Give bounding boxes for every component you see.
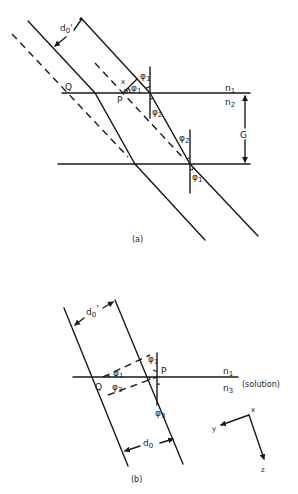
label-phi3-normal-b: φ3: [155, 408, 165, 420]
label-x: x: [121, 78, 125, 86]
label-phi1-top: φ1: [140, 71, 150, 83]
label-d0-b: d0: [143, 438, 153, 450]
label-d0-prime: d0': [60, 23, 73, 35]
label-d0-prime-b: d0': [86, 304, 99, 319]
axis-y: [221, 415, 249, 425]
label-phi2-upper: φ2: [152, 107, 162, 119]
caption-b: (b): [131, 475, 142, 484]
label-P-b: P: [161, 366, 167, 376]
optics-diagram: d0' Q P x φ1 φ1 n1 n2 φ2 φ2 G φ1 (a): [0, 0, 298, 494]
left-beam-edge: [28, 21, 205, 240]
d0-prime-endpoint: [79, 17, 82, 20]
label-n1-b: n1: [223, 366, 233, 378]
d0-arrow-right: [160, 439, 173, 443]
figure-b: d0' φ1 P φ1 Q φ3 n1 n3 (solution) φ3 d0 …: [64, 300, 280, 484]
d0-prime-arrow-tail: [74, 20, 81, 30]
label-Q: Q: [65, 82, 72, 92]
label-n2: n2: [225, 97, 235, 109]
d0-prime-arrow-left: [75, 318, 84, 325]
d0-arrow-left: [125, 446, 140, 451]
label-phi1-bottom: φ1: [192, 172, 202, 184]
d0-prime-arrow: [55, 37, 66, 46]
axis-z: [249, 415, 264, 459]
label-phi3-inner-b: φ3: [112, 382, 122, 394]
angle-arc-phi1-inner: [128, 88, 130, 93]
label-phi2-lower: φ2: [179, 133, 189, 145]
figure-a: d0' Q P x φ1 φ1 n1 n2 φ2 φ2 G φ1 (a): [12, 17, 258, 244]
right-beam-edge: [81, 18, 258, 236]
label-n3-b: n3: [223, 383, 233, 395]
label-P: P: [117, 95, 123, 105]
caption-a: (a): [132, 235, 143, 244]
left-undeviated-path: [12, 34, 128, 157]
label-Q-b: Q: [95, 382, 102, 392]
coordinate-axes: x y z: [212, 406, 265, 474]
axis-label-x: x: [251, 406, 255, 414]
d0-prime-arrow-right: [103, 302, 113, 308]
label-solution: (solution): [242, 380, 280, 389]
axis-label-y: y: [212, 425, 216, 433]
label-phi1-inner-b: φ1: [113, 368, 123, 380]
label-G: G: [240, 130, 247, 140]
axis-label-z: z: [261, 466, 265, 474]
